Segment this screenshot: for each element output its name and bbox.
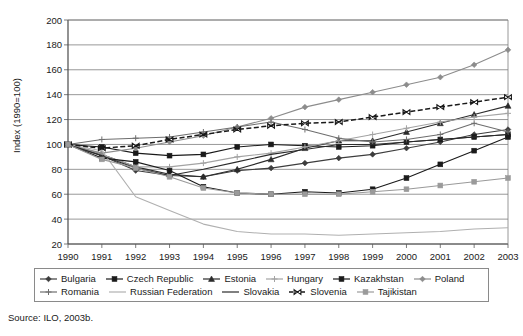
marker-square xyxy=(339,276,344,281)
legend-item-tajikistan[interactable]: Tajikistan xyxy=(356,287,417,297)
marker-square xyxy=(506,176,511,181)
marker-square xyxy=(167,174,172,179)
x-tick-label-1998: 1998 xyxy=(328,251,349,262)
marker-square xyxy=(235,191,240,196)
marker-square xyxy=(133,166,138,171)
marker-square xyxy=(370,189,375,194)
marker-square xyxy=(404,176,409,181)
marker-square xyxy=(167,168,172,173)
legend-rows: BulgariaCzech RepublicEstoniaHungaryKaza… xyxy=(39,272,484,298)
y-tick-label-160: 160 xyxy=(46,64,62,75)
y-tick-label-40: 40 xyxy=(51,214,62,225)
x-tick-label-1994: 1994 xyxy=(193,251,214,262)
legend-swatch-slovenia xyxy=(288,287,307,297)
legend-label: Kazakhstan xyxy=(354,274,404,284)
x-tick-label-2003: 2003 xyxy=(497,251,518,262)
marker-square xyxy=(133,151,138,156)
x-tick-label-2002: 2002 xyxy=(464,251,485,262)
marker-square xyxy=(404,187,409,192)
marker-square xyxy=(336,192,341,197)
legend-item-hungary[interactable]: Hungary xyxy=(265,274,323,284)
x-tick-label-1991: 1991 xyxy=(91,251,112,262)
marker-square xyxy=(438,183,443,188)
chart-plot-area: 2040608010012014016018020019901991199219… xyxy=(0,0,523,268)
legend-label: Estonia xyxy=(224,274,256,284)
legend-swatch-kazakhstan xyxy=(332,274,351,284)
x-tick-label-1993: 1993 xyxy=(159,251,180,262)
marker-square xyxy=(506,135,511,140)
x-tick-label-1990: 1990 xyxy=(57,251,78,262)
marker-square xyxy=(363,289,368,294)
line-chart: 2040608010012014016018020019901991199219… xyxy=(0,0,523,268)
marker-plus xyxy=(272,276,278,282)
legend-label: Bulgaria xyxy=(61,274,96,284)
legend-item-slovakia[interactable]: Slovakia xyxy=(221,287,279,297)
legend-item-kazakhstan[interactable]: Kazakhstan xyxy=(332,274,404,284)
legend-item-russian-federation[interactable]: Russian Federation xyxy=(108,287,212,297)
legend-row-1: BulgariaCzech RepublicEstoniaHungaryKaza… xyxy=(39,272,484,285)
marker-diamond xyxy=(419,276,425,282)
legend-label: Romania xyxy=(61,287,99,297)
legend-item-slovenia[interactable]: Slovenia xyxy=(288,287,346,297)
legend-swatch-bulgaria xyxy=(39,274,58,284)
marker-square xyxy=(235,145,240,150)
marker-square xyxy=(133,159,138,164)
plot-background xyxy=(68,20,508,244)
y-tick-label-120: 120 xyxy=(46,114,62,125)
figure-root: 2040608010012014016018020019901991199219… xyxy=(0,0,523,336)
x-tick-label-1992: 1992 xyxy=(125,251,146,262)
legend-label: Slovakia xyxy=(243,287,279,297)
chart-legend: BulgariaCzech RepublicEstoniaHungaryKaza… xyxy=(34,268,489,302)
marker-square xyxy=(112,276,117,281)
x-tick-label-2001: 2001 xyxy=(430,251,451,262)
legend-item-romania[interactable]: Romania xyxy=(39,287,99,297)
marker-square xyxy=(269,142,274,147)
legend-label: Czech Republic xyxy=(127,274,194,284)
y-tick-label-80: 80 xyxy=(51,164,62,175)
legend-swatch-romania xyxy=(39,287,58,297)
legend-swatch-hungary xyxy=(265,274,284,284)
y-tick-label-180: 180 xyxy=(46,39,62,50)
legend-swatch-tajikistan xyxy=(356,287,375,297)
legend-label: Poland xyxy=(435,274,465,284)
legend-item-estonia[interactable]: Estonia xyxy=(202,274,256,284)
marker-square xyxy=(99,157,104,162)
legend-label: Slovenia xyxy=(310,287,346,297)
legend-label: Tajikistan xyxy=(378,287,417,297)
legend-label: Hungary xyxy=(287,274,323,284)
y-tick-label-20: 20 xyxy=(51,239,62,250)
y-tick-label-60: 60 xyxy=(51,189,62,200)
x-tick-label-1999: 1999 xyxy=(362,251,383,262)
marker-square xyxy=(201,186,206,191)
marker-square xyxy=(167,153,172,158)
legend-swatch-czech-republic xyxy=(105,274,124,284)
y-axis-title: Index (1990=100) xyxy=(11,56,22,176)
marker-square xyxy=(303,192,308,197)
legend-item-poland[interactable]: Poland xyxy=(413,274,465,284)
marker-square xyxy=(66,142,71,147)
marker-square xyxy=(472,148,477,153)
y-tick-label-100: 100 xyxy=(46,139,62,150)
legend-item-czech-republic[interactable]: Czech Republic xyxy=(105,274,194,284)
marker-plus xyxy=(46,289,52,295)
legend-row-2: RomaniaRussian FederationSlovakiaSloveni… xyxy=(39,285,484,298)
legend-label: Russian Federation xyxy=(130,287,212,297)
source-note: Source: ILO, 2003b. xyxy=(8,312,93,323)
legend-swatch-poland xyxy=(413,274,432,284)
x-tick-label-1997: 1997 xyxy=(294,251,315,262)
legend-swatch-slovakia xyxy=(221,287,240,297)
y-tick-label-200: 200 xyxy=(46,15,62,26)
marker-square xyxy=(438,162,443,167)
x-tick-label-1996: 1996 xyxy=(261,251,282,262)
marker-square xyxy=(336,145,341,150)
marker-square xyxy=(269,192,274,197)
x-tick-label-1995: 1995 xyxy=(227,251,248,262)
y-tick-label-140: 140 xyxy=(46,89,62,100)
marker-square xyxy=(472,179,477,184)
legend-swatch-russian-federation xyxy=(108,287,127,297)
legend-item-bulgaria[interactable]: Bulgaria xyxy=(39,274,96,284)
marker-square xyxy=(201,152,206,157)
legend-swatch-estonia xyxy=(202,274,221,284)
x-tick-label-2000: 2000 xyxy=(396,251,417,262)
marker-diamond xyxy=(46,276,52,282)
